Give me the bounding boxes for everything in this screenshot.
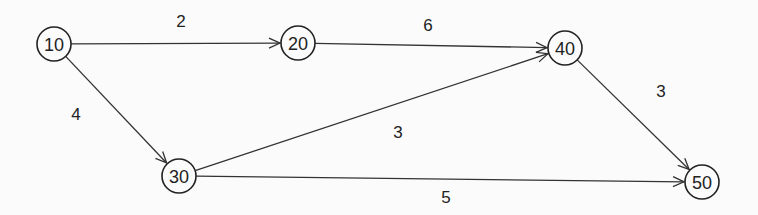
edge-label-30-40: 3 <box>393 123 402 142</box>
edge-20-40 <box>315 43 547 47</box>
edge-40-50 <box>577 60 689 170</box>
node-30: 30 <box>162 159 196 193</box>
node-20: 20 <box>281 26 315 60</box>
edge-10-20 <box>71 43 280 44</box>
edge-30-40 <box>195 54 548 171</box>
edge-label-30-50: 5 <box>441 188 450 207</box>
node-label: 30 <box>169 167 189 187</box>
node-label: 40 <box>555 39 575 59</box>
node-label: 20 <box>288 34 308 54</box>
nodes: 1020304050 <box>37 26 719 199</box>
node-label: 10 <box>44 35 64 55</box>
network-diagram: 1020304050 264335 <box>0 0 758 215</box>
edge-10-30 <box>66 56 167 163</box>
node-50: 50 <box>685 165 719 199</box>
edge-label-20-40: 6 <box>423 16 432 35</box>
edges <box>66 43 689 182</box>
node-40: 40 <box>548 31 582 65</box>
diagram-svg: 1020304050 264335 <box>0 0 758 215</box>
edge-label-10-20: 2 <box>176 12 185 31</box>
edge-label-10-30: 4 <box>71 105 80 124</box>
node-10: 10 <box>37 27 71 61</box>
edge-label-40-50: 3 <box>656 82 665 101</box>
node-label: 50 <box>692 173 712 193</box>
edge-30-50 <box>196 176 684 182</box>
